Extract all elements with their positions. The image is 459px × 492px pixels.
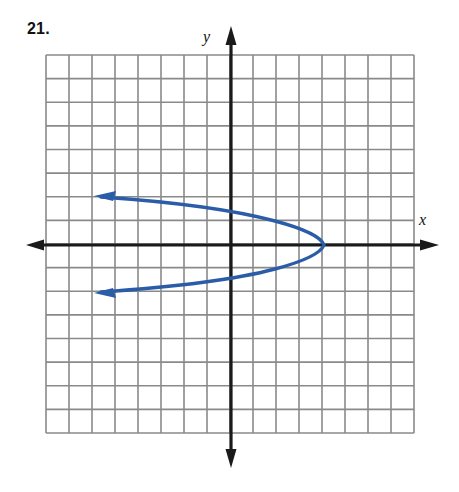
curve-lower-arrowhead xyxy=(94,288,116,298)
graph-figure: 21. y x xyxy=(0,0,459,492)
y-axis-label: y xyxy=(203,28,210,46)
x-axis-left-arrowhead xyxy=(26,240,44,251)
y-axis xyxy=(226,26,237,468)
y-axis-bottom-arrowhead xyxy=(226,449,237,468)
x-axis-label: x xyxy=(419,211,426,229)
coordinate-plane-svg xyxy=(0,0,459,492)
curve-upper-arrowhead xyxy=(94,191,116,201)
problem-number-label: 21. xyxy=(27,20,50,38)
x-axis-right-arrowhead xyxy=(420,240,439,251)
y-axis-top-arrowhead xyxy=(226,26,237,45)
